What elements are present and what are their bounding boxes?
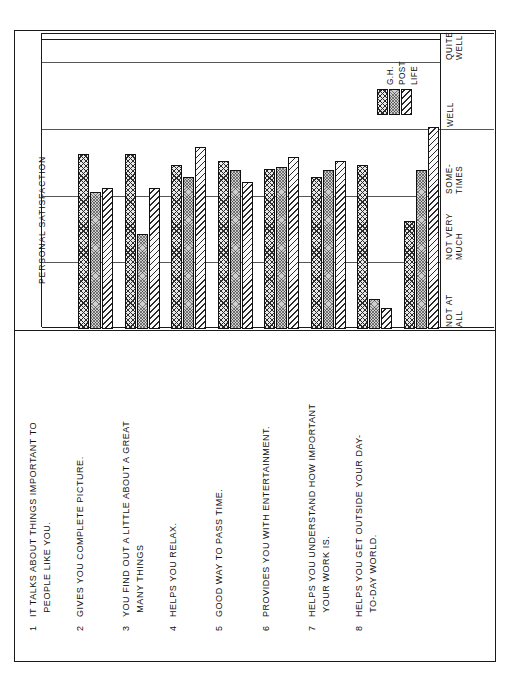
bar-gh-5[interactable] bbox=[264, 169, 275, 329]
item-text: HELPS YOU GET OUTSIDE YOUR DAY- TO-DAY W… bbox=[354, 434, 378, 631]
bar-life-3[interactable] bbox=[195, 147, 206, 329]
bar-life-1[interactable] bbox=[102, 188, 113, 330]
scale-label-text: NOT AT ALL bbox=[445, 294, 465, 327]
bar-gh-3[interactable] bbox=[171, 165, 182, 329]
item-text: PROVIDES YOU WITH ENTERTAINMENT. bbox=[261, 426, 271, 617]
item-text: IT TALKS ABOUT THINGS IMPORTANT TO PEOPL… bbox=[28, 422, 52, 631]
bar-group bbox=[218, 42, 253, 329]
item-text: GIVES YOU COMPLETE PICTURE. bbox=[75, 456, 85, 617]
bar-life-8[interactable] bbox=[428, 127, 439, 329]
scale-label-text: NOT VERY MUCH bbox=[445, 213, 465, 260]
plot-area: G.H.POSTLIFE bbox=[42, 33, 440, 327]
item-number: 8 bbox=[353, 617, 367, 631]
item-text: HELPS YOU RELAX. bbox=[168, 522, 178, 617]
legend-swatch-post bbox=[389, 89, 400, 115]
item-number: 4 bbox=[167, 617, 181, 631]
figure-page: PERSONAL SATISFACTION G.H.POSTLIFE NOT A… bbox=[0, 0, 510, 675]
scale-label-text: SOME- TIMES bbox=[445, 163, 465, 193]
scale-label-text: QUITE WELL bbox=[445, 31, 465, 60]
bar-life-5[interactable] bbox=[288, 157, 299, 329]
bar-post-4[interactable] bbox=[230, 170, 241, 329]
item-number: 1 bbox=[27, 617, 41, 631]
bar-group bbox=[171, 42, 206, 329]
item-number: 2 bbox=[74, 617, 88, 631]
list-item: 1IT TALKS ABOUT THINGS IMPORTANT TO PEOP… bbox=[27, 422, 54, 631]
bar-group bbox=[357, 42, 392, 329]
bar-post-3[interactable] bbox=[183, 177, 194, 329]
bar-life-7[interactable] bbox=[381, 308, 392, 329]
legend-label-life: LIFE bbox=[410, 66, 419, 85]
scale-label-4: QUITE WELL bbox=[441, 60, 495, 80]
bar-life-4[interactable] bbox=[242, 182, 253, 329]
bar-gh-1[interactable] bbox=[78, 154, 89, 329]
bar-group bbox=[125, 42, 160, 329]
bar-gh-4[interactable] bbox=[218, 161, 229, 329]
bar-post-6[interactable] bbox=[323, 170, 334, 329]
bar-chart: PERSONAL SATISFACTION G.H.POSTLIFE NOT A… bbox=[15, 31, 495, 329]
list-item: 7HELPS YOU UNDERSTAND HOW IMPORTANT YOUR… bbox=[306, 403, 333, 631]
item-number: 5 bbox=[213, 617, 227, 631]
bar-post-8[interactable] bbox=[416, 170, 427, 329]
bar-gh-2[interactable] bbox=[125, 154, 136, 329]
bar-post-1[interactable] bbox=[90, 192, 101, 329]
axis-title-strip: PERSONAL SATISFACTION bbox=[15, 33, 42, 327]
bar-group bbox=[264, 42, 299, 329]
bar-post-7[interactable] bbox=[369, 299, 380, 329]
list-item: 8HELPS YOU GET OUTSIDE YOUR DAY- TO-DAY … bbox=[353, 434, 380, 631]
list-item: 6PROVIDES YOU WITH ENTERTAINMENT. bbox=[260, 426, 274, 631]
item-number: 7 bbox=[306, 617, 320, 631]
bar-gh-6[interactable] bbox=[311, 177, 322, 329]
list-item: 2GIVES YOU COMPLETE PICTURE. bbox=[74, 456, 88, 631]
item-number: 3 bbox=[120, 617, 134, 631]
value-scale-labels: NOT AT ALLNOT VERY MUCHSOME- TIMESWELLQU… bbox=[440, 33, 494, 327]
item-list: 1IT TALKS ABOUT THINGS IMPORTANT TO PEOP… bbox=[15, 330, 495, 661]
item-number: 6 bbox=[260, 617, 274, 631]
bar-life-2[interactable] bbox=[149, 188, 160, 330]
item-text: YOU FIND OUT A LITTLE ABOUT A GREAT MANY… bbox=[121, 421, 145, 631]
bar-post-2[interactable] bbox=[137, 234, 148, 329]
bar-group bbox=[311, 42, 346, 329]
scale-label-2: SOME- TIMES bbox=[441, 194, 495, 214]
bar-gh-8[interactable] bbox=[404, 221, 415, 329]
item-text: GOOD WAY TO PASS TIME. bbox=[214, 489, 224, 617]
legend-swatch-gh bbox=[377, 89, 388, 115]
item-text: HELPS YOU UNDERSTAND HOW IMPORTANT YOUR … bbox=[307, 403, 331, 631]
bar-group bbox=[78, 42, 113, 329]
legend-swatch-life bbox=[401, 89, 412, 115]
list-item: 5GOOD WAY TO PASS TIME. bbox=[213, 489, 227, 631]
legend-label-post: POST bbox=[398, 61, 407, 85]
bar-group bbox=[404, 42, 439, 329]
list-item: 4HELPS YOU RELAX. bbox=[167, 522, 181, 631]
bars-container bbox=[69, 42, 467, 329]
bar-life-6[interactable] bbox=[335, 161, 346, 329]
list-item: 3YOU FIND OUT A LITTLE ABOUT A GREAT MAN… bbox=[120, 421, 147, 631]
bar-gh-7[interactable] bbox=[357, 165, 368, 329]
scale-label-3: WELL bbox=[441, 127, 495, 147]
scale-label-1: NOT VERY MUCH bbox=[441, 260, 495, 280]
legend-label-gh: G.H. bbox=[386, 66, 395, 85]
bar-post-5[interactable] bbox=[276, 167, 287, 329]
scale-label-text: WELL bbox=[446, 102, 456, 127]
